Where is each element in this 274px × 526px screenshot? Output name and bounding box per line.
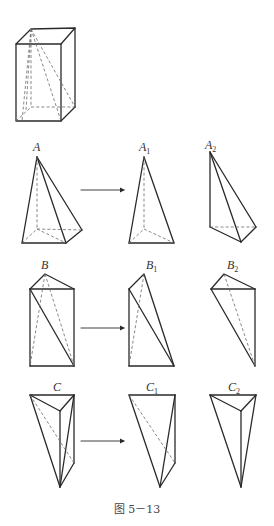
- shape-B2: [211, 274, 255, 366]
- label-B1-sub: 1: [153, 265, 157, 274]
- label-A2-sub: 2: [212, 145, 216, 154]
- label-B2-sub: 2: [234, 265, 238, 274]
- shape-C2: [210, 395, 256, 487]
- shape-A: [22, 157, 82, 243]
- shape-C: [30, 395, 74, 487]
- shape-B: [30, 274, 74, 366]
- label-C2: C2: [228, 381, 240, 396]
- label-A1-sub: 1: [146, 147, 150, 156]
- shape-C1: [129, 395, 175, 487]
- label-C2-sub: 2: [236, 387, 240, 396]
- label-B2: B2: [227, 259, 238, 274]
- figure-caption: 图 5－13: [0, 500, 274, 516]
- label-C1: C1: [146, 381, 158, 396]
- label-B-text: B: [41, 258, 48, 272]
- label-B: B: [41, 259, 48, 271]
- label-A: A: [33, 141, 40, 153]
- shape-A1: [129, 157, 174, 243]
- shape-A2: [210, 152, 256, 242]
- label-C1-text: C: [146, 380, 154, 394]
- shape-B1: [129, 274, 174, 366]
- label-C1-sub: 1: [154, 387, 158, 396]
- triangular-prism-with-pyramid: [16, 28, 75, 121]
- label-A-text: A: [33, 140, 40, 154]
- label-C: C: [53, 381, 61, 393]
- label-C2-text: C: [228, 380, 236, 394]
- label-A2: A2: [205, 139, 216, 154]
- label-B1: B1: [146, 259, 157, 274]
- label-C-text: C: [53, 380, 61, 394]
- label-A1: A1: [139, 141, 150, 156]
